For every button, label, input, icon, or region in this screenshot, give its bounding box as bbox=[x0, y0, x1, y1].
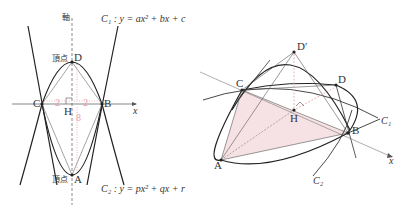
label-B: B bbox=[104, 97, 111, 109]
vertex-A-prefix: 頂点 bbox=[52, 175, 68, 184]
point-D-prime bbox=[292, 50, 295, 53]
point-B bbox=[346, 131, 350, 135]
x-axis-label: x bbox=[132, 105, 138, 116]
measure-height: 8 bbox=[76, 112, 81, 123]
outer-curve-right-lower bbox=[102, 104, 124, 185]
outer-curve-left-lower bbox=[20, 104, 42, 185]
measure-left-half: 2 bbox=[55, 97, 60, 108]
label-H: H bbox=[64, 105, 72, 117]
label-B: B bbox=[352, 124, 359, 136]
axis-label: 軸 bbox=[62, 12, 70, 22]
point-C bbox=[40, 102, 43, 105]
x-axis-label: x bbox=[388, 155, 394, 166]
curve-c1-label: C₁ bbox=[381, 115, 391, 126]
label-C: C bbox=[236, 77, 243, 89]
curve-c1-equation: C₁ : y = ax² + bx + c bbox=[101, 13, 186, 24]
measure-right-half: 2 bbox=[83, 97, 88, 108]
label-D: D bbox=[338, 73, 346, 85]
curve-c2-equation: C₂ : y = px² + qx + r bbox=[101, 183, 185, 194]
curve-c2-label: C₂ bbox=[313, 175, 324, 186]
label-A: A bbox=[74, 173, 82, 185]
label-A: A bbox=[214, 159, 222, 171]
curve-c2 bbox=[313, 110, 352, 176]
right-diagram: D′ D C B A H C₁ C₂ x bbox=[200, 40, 394, 186]
label-D-prime: D′ bbox=[297, 40, 307, 52]
label-C: C bbox=[33, 97, 40, 109]
left-diagram: 軸 C₁ : y = ax² + bx + c C₂ : y = px² + q… bbox=[12, 12, 186, 205]
label-H: H bbox=[290, 112, 298, 124]
label-D: D bbox=[74, 51, 82, 63]
diagram-canvas: 軸 C₁ : y = ax² + bx + c C₂ : y = px² + q… bbox=[0, 0, 402, 208]
vertex-D-prefix: 頂点 bbox=[52, 54, 68, 63]
